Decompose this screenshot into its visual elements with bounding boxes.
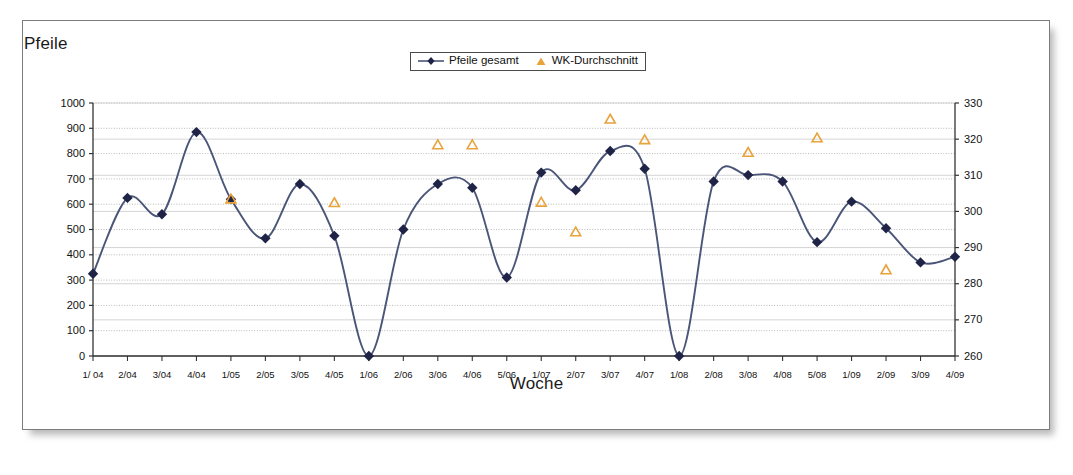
legend-label-wk-durchschnitt: WK-Durchschnitt (552, 55, 638, 67)
svg-text:320: 320 (964, 133, 982, 145)
svg-text:500: 500 (67, 223, 85, 235)
legend-label-pfeile-gesamt: Pfeile gesamt (449, 55, 519, 67)
x-axis-title: Woche (0, 374, 1073, 394)
svg-text:260: 260 (964, 350, 982, 362)
svg-text:900: 900 (67, 122, 85, 134)
svg-text:280: 280 (964, 277, 982, 289)
legend-triangle-icon (535, 56, 547, 66)
svg-text:270: 270 (964, 313, 982, 325)
svg-text:300: 300 (964, 205, 982, 217)
svg-text:330: 330 (964, 97, 982, 109)
right-axis-ticks: 260270280290300310320330 (955, 97, 982, 362)
chart-plot: 01002003004005006007008009001000 2602702… (0, 0, 1073, 475)
svg-text:310: 310 (964, 169, 982, 181)
svg-text:1000: 1000 (61, 97, 85, 109)
legend-entry-wk-durchschnitt: WK-Durchschnitt (535, 55, 638, 67)
legend-line-diamond-icon (418, 56, 444, 66)
svg-text:300: 300 (67, 274, 85, 286)
series-markers-pfeile-gesamt (88, 127, 960, 361)
svg-text:600: 600 (67, 198, 85, 210)
svg-text:290: 290 (964, 241, 982, 253)
svg-text:700: 700 (67, 173, 85, 185)
left-axis-ticks: 01002003004005006007008009001000 (61, 97, 93, 362)
legend-entry-pfeile-gesamt: Pfeile gesamt (418, 55, 519, 67)
series-line-pfeile-gesamt (93, 132, 955, 356)
svg-text:800: 800 (67, 147, 85, 159)
svg-text:200: 200 (67, 299, 85, 311)
svg-text:400: 400 (67, 248, 85, 260)
svg-text:0: 0 (79, 350, 85, 362)
chart-legend: Pfeile gesamt WK-Durchschnitt (410, 52, 646, 71)
svg-text:100: 100 (67, 324, 85, 336)
